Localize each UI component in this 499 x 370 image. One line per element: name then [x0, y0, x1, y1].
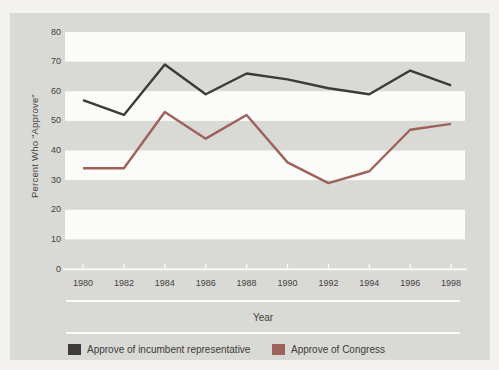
- x-tick-label-1992: 1992: [311, 278, 345, 289]
- x-axis-tick-1992: [328, 264, 329, 269]
- y-tick-label-50: 50: [36, 115, 61, 126]
- legend-label-congress: Approve of Congress: [291, 344, 385, 355]
- legend-item-incumbent: Approve of incumbent representative: [68, 344, 250, 355]
- y-tick-label-80: 80: [36, 27, 61, 38]
- separator-line-below-x-title: [66, 332, 460, 334]
- x-tick-label-1998: 1998: [434, 278, 468, 289]
- x-axis-tick-1986: [205, 264, 206, 269]
- x-axis-tick-1998: [451, 264, 452, 269]
- y-tick-label-20: 20: [36, 204, 61, 215]
- x-tick-label-1980: 1980: [66, 278, 100, 289]
- x-axis-tick-1990: [287, 264, 288, 269]
- x-axis-tick-1980: [82, 264, 83, 269]
- legend-swatch-congress-icon: [272, 344, 285, 355]
- x-tick-label-1996: 1996: [393, 278, 427, 289]
- y-tick-label-70: 70: [36, 56, 61, 67]
- x-axis-title: Year: [66, 312, 460, 323]
- legend-item-congress: Approve of Congress: [272, 344, 385, 355]
- x-tick-label-1988: 1988: [230, 278, 264, 289]
- y-tick-label-40: 40: [36, 145, 61, 156]
- legend-label-incumbent: Approve of incumbent representative: [87, 344, 250, 355]
- grid-band-70-80: [65, 32, 465, 62]
- x-tick-label-1982: 1982: [107, 278, 141, 289]
- x-tick-label-1994: 1994: [352, 278, 386, 289]
- separator-line-above-x-title: [66, 300, 460, 302]
- legend-swatch-incumbent-icon: [68, 344, 81, 355]
- x-tick-label-1990: 1990: [271, 278, 305, 289]
- x-axis-tick-1996: [410, 264, 411, 269]
- x-axis-line: [63, 268, 467, 270]
- x-axis-tick-1988: [246, 264, 247, 269]
- x-axis-tick-1982: [123, 264, 124, 269]
- grid-band-10-20: [65, 210, 465, 240]
- x-tick-label-1984: 1984: [148, 278, 182, 289]
- y-tick-label-0: 0: [36, 264, 61, 275]
- x-axis-tick-1994: [369, 264, 370, 269]
- y-tick-label-30: 30: [36, 175, 61, 186]
- x-axis-tick-1984: [164, 264, 165, 269]
- x-tick-label-1986: 1986: [189, 278, 223, 289]
- grid-band-50-60: [65, 91, 465, 121]
- y-tick-label-10: 10: [36, 234, 61, 245]
- y-tick-label-60: 60: [36, 86, 61, 97]
